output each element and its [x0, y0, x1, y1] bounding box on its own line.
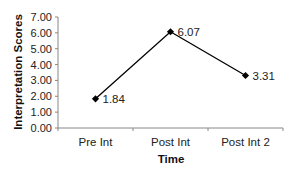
y-axis: 0.001.002.003.004.005.006.007.00 — [31, 11, 58, 134]
x-axis: Pre IntPost IntPost Int 2 — [58, 128, 283, 148]
data-label: 1.84 — [103, 93, 126, 105]
x-category-label: Post Int 2 — [221, 136, 270, 148]
y-tick-label: 7.00 — [31, 11, 52, 23]
y-tick-label: 4.00 — [31, 59, 52, 71]
y-tick-label: 1.00 — [31, 106, 52, 118]
data-label: 3.31 — [253, 70, 275, 82]
y-tick-label: 0.00 — [31, 122, 52, 134]
y-tick-label: 5.00 — [31, 43, 52, 55]
y-tick-label: 3.00 — [31, 74, 52, 86]
diamond-marker-icon — [242, 72, 249, 79]
y-axis-title: Interpretation Scores — [12, 14, 24, 130]
data-label: 6.07 — [178, 26, 200, 38]
y-tick-label: 6.00 — [31, 27, 52, 39]
x-category-label: Post Int — [151, 136, 191, 148]
line-chart: 0.001.002.003.004.005.006.007.00 Pre Int… — [0, 0, 296, 177]
series-line — [96, 32, 246, 99]
x-category-label: Pre Int — [79, 136, 114, 148]
data-series: 1.846.073.31 — [92, 26, 275, 105]
y-tick-label: 2.00 — [31, 90, 52, 102]
x-axis-title: Time — [158, 153, 185, 165]
